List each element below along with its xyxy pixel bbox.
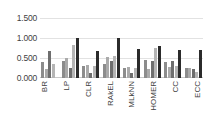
x-tick-label: BR xyxy=(41,81,49,92)
bar-chart: 1.500 1.000 0.500 0.000 BRLPCLRRAkELMLkN… xyxy=(0,0,205,131)
bar xyxy=(117,38,120,78)
x-tick: HOMER xyxy=(150,79,158,131)
x-tick-label: RAkEL xyxy=(107,81,115,106)
x-tick: CLR xyxy=(85,79,93,131)
x-tick: RAkEL xyxy=(107,79,115,131)
bar xyxy=(178,50,181,78)
x-tick-label: CLR xyxy=(85,81,93,97)
y-axis: 1.500 1.000 0.500 0.000 xyxy=(0,0,40,131)
bar-group xyxy=(123,18,141,78)
bar xyxy=(52,64,55,78)
x-tick: MLkNN xyxy=(128,79,136,131)
bar xyxy=(96,51,99,78)
bar-group xyxy=(164,18,182,78)
y-tick-label: 1.000 xyxy=(17,34,37,43)
bars-layer xyxy=(40,18,203,78)
bar xyxy=(158,46,161,78)
bar-group xyxy=(62,18,80,78)
bar-group xyxy=(82,18,100,78)
x-tick-label: CC xyxy=(172,81,180,93)
bar-group xyxy=(185,18,203,78)
x-tick: ECC xyxy=(194,79,202,131)
x-tick: LP xyxy=(63,79,71,131)
y-tick-label: 0.000 xyxy=(17,74,37,83)
y-tick-label: 0.500 xyxy=(17,54,37,63)
x-tick-label: LP xyxy=(63,81,71,91)
bar-group xyxy=(144,18,162,78)
bar xyxy=(76,38,79,78)
bar xyxy=(137,49,140,78)
y-tick-label: 1.500 xyxy=(17,14,37,23)
plot-area xyxy=(40,18,203,78)
x-tick: BR xyxy=(41,79,49,131)
bar xyxy=(199,50,202,78)
bar-group xyxy=(103,18,121,78)
bar-group xyxy=(41,18,59,78)
x-axis: BRLPCLRRAkELMLkNNHOMERCCECC xyxy=(40,79,203,131)
x-tick-label: ECC xyxy=(194,81,202,98)
x-tick-label: MLkNN xyxy=(128,81,136,108)
x-tick-label: HOMER xyxy=(150,81,158,111)
x-tick: CC xyxy=(172,79,180,131)
